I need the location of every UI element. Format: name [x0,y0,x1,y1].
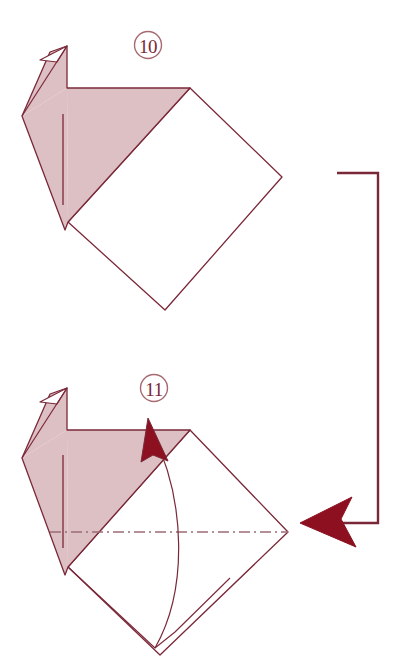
step-11-number-badge: 11 [141,375,168,402]
origami-diagram-root: 10 [0,0,399,668]
step-10-number-badge: 10 [135,32,162,59]
origami-diagram-canvas: 10 [0,0,399,668]
step-10-number-text: 10 [139,36,157,57]
step-11-number-text: 11 [145,379,162,400]
